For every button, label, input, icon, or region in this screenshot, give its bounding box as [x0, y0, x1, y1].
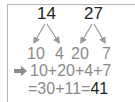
step-sum-expression: =30+11=	[28, 80, 90, 97]
left-part-tens: 10	[27, 46, 45, 62]
step-regroup: 10+20+4+7	[30, 63, 111, 79]
right-arrow-icon	[14, 66, 28, 76]
step-sum: =30+11=41	[28, 81, 108, 97]
right-part-tens: 20	[71, 46, 89, 62]
left-part-ones: 4	[55, 46, 64, 62]
right-part-ones: 7	[102, 46, 111, 62]
final-answer: 41	[90, 80, 108, 97]
